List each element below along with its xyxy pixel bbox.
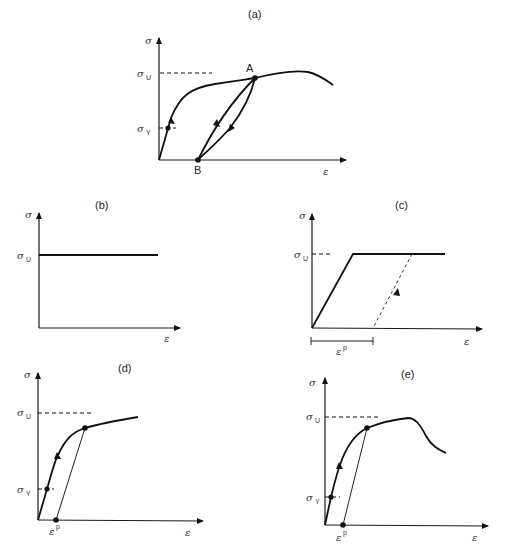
- x-axis: [38, 520, 203, 521]
- y-axis-label: σ: [299, 210, 307, 221]
- unload-path: [198, 78, 255, 160]
- svg-text:U: U: [303, 255, 308, 262]
- sigma-u-label: σ: [17, 250, 25, 261]
- svg-text:U: U: [26, 413, 31, 420]
- arrow-up-icon: [54, 452, 61, 459]
- point-a-label: A: [246, 62, 254, 74]
- x-axis-label: ε: [464, 336, 469, 347]
- x-axis-label: ε: [472, 532, 477, 543]
- svg-text:p: p: [343, 529, 347, 537]
- eps-p-point: [53, 517, 59, 523]
- sigma-u-label: σ: [137, 68, 145, 79]
- panel-c-title: (c): [395, 199, 408, 211]
- panel-b-title: (b): [95, 199, 108, 211]
- svg-text:U: U: [26, 256, 31, 263]
- unload-line: [56, 428, 85, 520]
- x-axis-label: ε: [323, 166, 328, 177]
- sigma-u-label: σ: [306, 411, 314, 422]
- unload-point: [364, 425, 370, 431]
- svg-text:Y: Y: [146, 129, 151, 136]
- panel-c: (c) σ ε σ U ε p: [294, 199, 482, 357]
- svg-text:U: U: [315, 417, 320, 424]
- svg-text:Y: Y: [26, 490, 31, 497]
- yield-point: [328, 494, 333, 499]
- x-axis: [325, 525, 488, 526]
- y-axis-label: σ: [24, 369, 32, 380]
- sigma-y-label: σ: [306, 492, 314, 503]
- unload-dashed-line: [373, 254, 412, 328]
- sigma-u-label: σ: [294, 249, 302, 260]
- stress-strain-figure: (a) σ ε σ U σ Y A B (b) σ ε σ U (c): [0, 0, 507, 557]
- eps-p-point: [340, 522, 346, 528]
- unload-line: [343, 428, 367, 525]
- eps-p-label: ε: [49, 526, 54, 537]
- arrow-up-icon: [336, 462, 343, 469]
- reload-path: [198, 78, 255, 160]
- point-a: [252, 75, 258, 81]
- x-axis: [312, 328, 482, 329]
- eps-p-label: ε: [336, 532, 341, 543]
- panel-b: (b) σ ε σ U: [17, 199, 180, 344]
- sigma-y-label: σ: [17, 484, 25, 495]
- yield-point: [44, 486, 49, 491]
- svg-text:p: p: [343, 344, 347, 352]
- arrow-down-icon: [393, 288, 400, 296]
- y-axis-label: σ: [25, 209, 33, 220]
- yield-point: [165, 125, 170, 130]
- svg-text:Y: Y: [315, 498, 320, 505]
- eps-p-label: ε: [336, 346, 341, 357]
- x-axis-label: ε: [164, 333, 169, 344]
- svg-text:U: U: [146, 74, 151, 81]
- svg-text:p: p: [56, 523, 60, 531]
- panel-e: (e) σ ε σ U σ Y ε p: [306, 368, 488, 543]
- elastic-perfectly-plastic-curve: [312, 254, 445, 328]
- y-axis-label: σ: [145, 35, 153, 46]
- panel-a-title: (a): [248, 8, 261, 20]
- panel-a: (a) σ ε σ U σ Y A B: [137, 8, 346, 177]
- hardening-curve: [38, 417, 138, 520]
- point-b: [195, 157, 201, 163]
- stress-strain-curve: [325, 418, 446, 525]
- panel-d: (d) σ ε σ U σ Y ε p: [17, 362, 203, 538]
- panel-d-title: (d): [118, 362, 131, 374]
- stress-strain-curve: [159, 71, 333, 160]
- point-b-label: B: [194, 164, 201, 176]
- unload-point: [82, 425, 88, 431]
- sigma-u-label: σ: [17, 407, 25, 418]
- sigma-y-label: σ: [137, 123, 145, 134]
- y-axis-label: σ: [309, 377, 317, 388]
- arrow-up-icon: [168, 117, 175, 124]
- panel-e-title: (e): [401, 368, 414, 380]
- x-axis-label: ε: [185, 527, 190, 538]
